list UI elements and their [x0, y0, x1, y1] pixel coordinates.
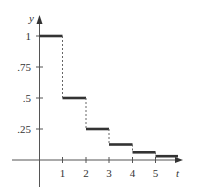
x-tick-label: 1: [60, 167, 66, 179]
y-tick-label: 1: [26, 30, 32, 42]
x-tick-label: 2: [83, 167, 89, 179]
jump-dashes: [63, 36, 156, 156]
y-tick-label: .5: [23, 92, 32, 104]
x-axis-arrow-icon: [175, 157, 183, 163]
y-axis-arrow-icon: [37, 15, 43, 24]
x-tick-label: 3: [106, 167, 112, 179]
x-tick-label: 5: [153, 167, 159, 179]
step-function-chart: y t 1 .75 .5 .25 1 2 3 4 5: [0, 0, 203, 193]
y-axis-label: y: [28, 12, 34, 24]
y-tick-label: .75: [17, 61, 31, 73]
x-tick-label: 4: [130, 167, 136, 179]
x-axis-label: t: [176, 167, 180, 179]
y-tick-label: .25: [17, 123, 31, 135]
